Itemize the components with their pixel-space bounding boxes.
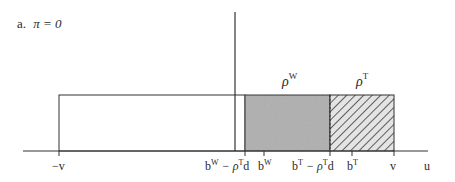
tick-label-bw-minus-rhot-d: bW − ρTd [205,158,249,173]
rho-w-label: ρW [281,71,298,89]
tick-label-bw: bW [258,158,272,173]
tick-label-bt-minus-rhot-d: bT − ρTd [292,158,334,173]
panel-title: a. π = 0 [17,16,62,31]
axis-label-u: u [424,159,430,173]
white-region [59,95,245,151]
diagram-canvas: a. π = 0 ρW ρT −v bW − ρTd bW bT − ρTd [0,0,455,182]
rho-w-region [245,95,330,151]
rho-t-region [330,95,394,151]
tick-label-v: v [390,159,396,173]
tick-label-bt: bT [347,158,358,173]
tick-marks [59,151,394,156]
tick-label-neg-v: −v [52,159,65,173]
rho-t-label: ρT [355,71,369,89]
